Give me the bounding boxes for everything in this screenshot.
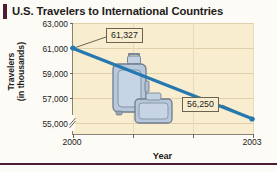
data-line-series — [72, 48, 253, 119]
data-callout-start: 61,327 — [106, 28, 143, 43]
data-point-end — [249, 116, 254, 121]
page-title: U.S. Travelers to International Countrie… — [12, 5, 223, 17]
title-accent-bar — [3, 4, 7, 19]
chart-container: Travelers (in thousands) 63,000 61,000 5… — [0, 20, 277, 151]
chart-title-bar: U.S. Travelers to International Countrie… — [0, 2, 277, 20]
x-axis-title: Year — [72, 151, 253, 161]
callout-start-leader-line — [74, 37, 106, 48]
x-tick-label: 2000 — [52, 137, 92, 147]
x-tick-label: 2003 — [232, 137, 272, 147]
data-point-start — [70, 45, 75, 50]
data-callout-end: 56,250 — [182, 97, 219, 112]
bottom-divider — [0, 163, 277, 165]
